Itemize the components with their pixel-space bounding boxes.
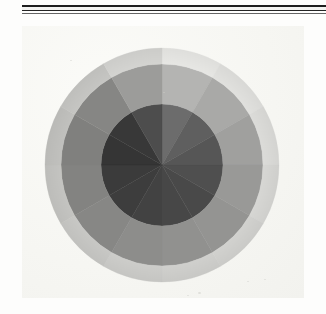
paper-speck — [198, 292, 201, 294]
plate-page — [0, 0, 326, 314]
wheel-vignette — [45, 48, 279, 282]
paper-speck — [187, 295, 189, 296]
paper-speck — [264, 279, 266, 280]
color-wheel-figure — [0, 0, 326, 314]
color-wheel-svg — [0, 0, 326, 314]
paper-speck — [247, 281, 249, 282]
paper-speck — [70, 60, 72, 61]
paper-speck — [163, 92, 165, 93]
